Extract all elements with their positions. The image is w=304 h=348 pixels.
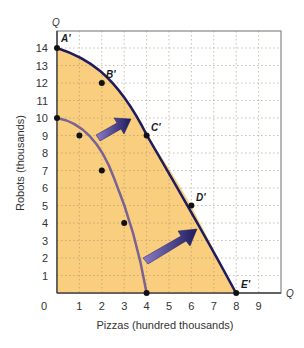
y-axis-title: Robots (thousands) bbox=[14, 115, 26, 211]
svg-text:3: 3 bbox=[42, 235, 48, 247]
label-b-prime: B' bbox=[106, 69, 116, 80]
svg-text:3: 3 bbox=[121, 300, 127, 312]
svg-text:6: 6 bbox=[188, 300, 194, 312]
x-axis-end-label: Q bbox=[286, 288, 294, 299]
svg-text:6: 6 bbox=[42, 182, 48, 194]
svg-text:1: 1 bbox=[42, 270, 48, 282]
svg-text:8: 8 bbox=[233, 300, 239, 312]
svg-text:14: 14 bbox=[36, 42, 48, 54]
svg-text:9: 9 bbox=[42, 130, 48, 142]
svg-text:2: 2 bbox=[99, 300, 105, 312]
svg-text:4: 4 bbox=[144, 300, 150, 312]
svg-text:5: 5 bbox=[166, 300, 172, 312]
svg-text:7: 7 bbox=[211, 300, 217, 312]
x-axis-title: Pizzas (hundred thousands) bbox=[97, 319, 234, 331]
y-axis-end-label: Q bbox=[52, 17, 60, 28]
svg-text:9: 9 bbox=[256, 300, 262, 312]
label-c-prime: C' bbox=[151, 122, 161, 133]
svg-text:12: 12 bbox=[36, 77, 48, 89]
x-tick-labels: 0 1 2 3 4 5 6 7 8 9 bbox=[41, 300, 262, 312]
label-d-prime: D' bbox=[196, 192, 206, 203]
svg-text:5: 5 bbox=[42, 200, 48, 212]
svg-text:11: 11 bbox=[37, 95, 48, 107]
svg-text:4: 4 bbox=[42, 217, 48, 229]
label-e-prime: E' bbox=[241, 279, 251, 290]
svg-text:13: 13 bbox=[36, 60, 48, 72]
svg-text:7: 7 bbox=[42, 165, 48, 177]
svg-text:8: 8 bbox=[42, 147, 48, 159]
svg-text:1: 1 bbox=[76, 300, 82, 312]
svg-text:2: 2 bbox=[42, 252, 48, 264]
svg-text:0: 0 bbox=[41, 300, 47, 312]
y-tick-labels: 1 2 3 4 5 6 7 8 9 10 11 12 13 14 bbox=[36, 42, 48, 282]
ppf-chart: A' B' C' D' E' Q Q 0 1 2 3 4 5 6 7 8 9 1… bbox=[0, 0, 304, 348]
label-a-prime: A' bbox=[60, 33, 71, 44]
svg-text:10: 10 bbox=[36, 112, 48, 124]
